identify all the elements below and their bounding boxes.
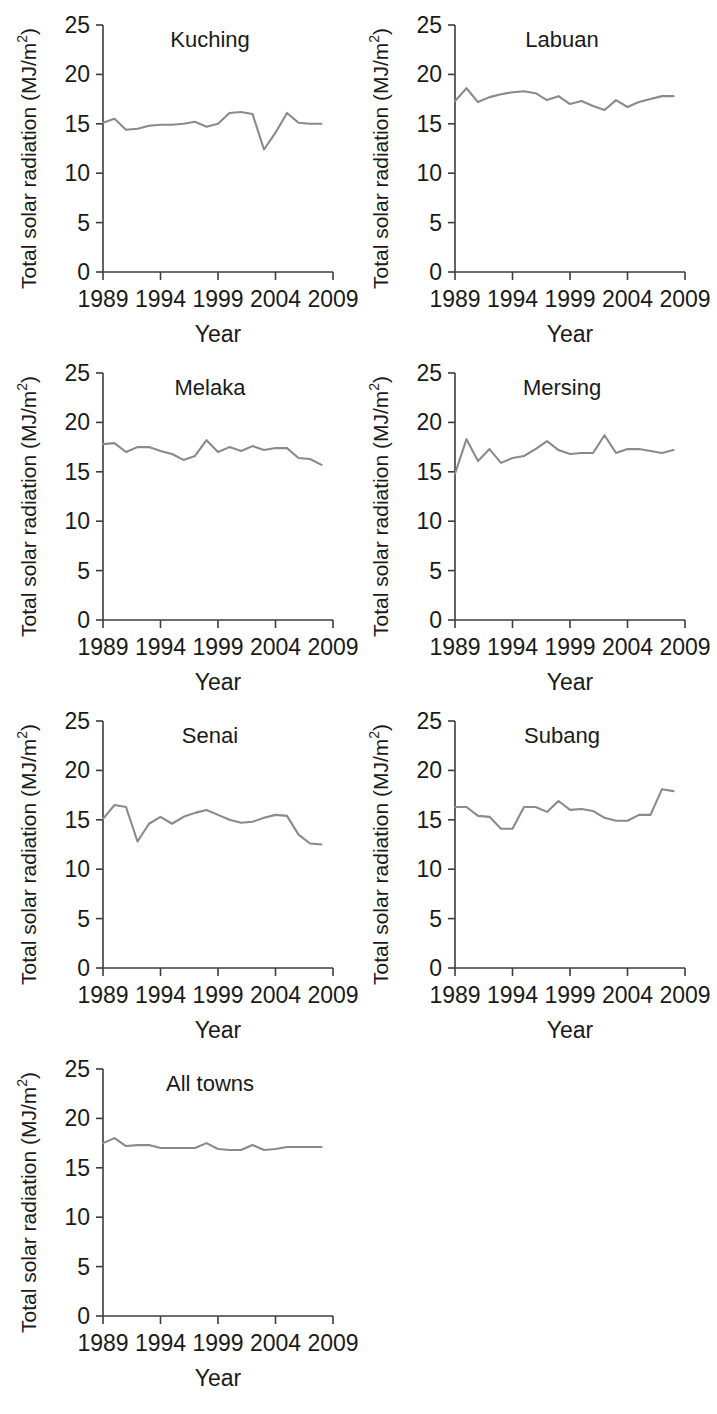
y-tick-label: 10 [64, 856, 90, 882]
chart-panel-kuching: 051015202519891994199920042009KuchingTot… [0, 0, 358, 348]
x-tick-label: 2009 [307, 286, 358, 312]
x-tick-label: 1994 [487, 286, 538, 312]
panel-title: Melaka [175, 375, 247, 400]
y-tick-label: 25 [416, 360, 442, 386]
x-axis-title: Year [547, 321, 594, 347]
x-tick-label: 1989 [77, 634, 128, 660]
y-axis-title-superscript: 2 [14, 35, 30, 43]
x-tick-label: 2004 [250, 982, 301, 1008]
y-tick-label: 25 [416, 708, 442, 734]
y-tick-label: 0 [429, 607, 442, 633]
x-tick-label: 1989 [77, 286, 128, 312]
x-tick-label: 2004 [602, 982, 653, 1008]
x-tick-label: 1999 [544, 982, 595, 1008]
panel-title: All towns [166, 1071, 254, 1096]
solar-radiation-figure: 051015202519891994199920042009KuchingTot… [0, 0, 717, 1414]
y-axis-title-main: Total solar radiation (MJ/m [369, 739, 392, 985]
plot-area: 051015202519891994199920042009MelakaTota… [0, 348, 358, 696]
y-tick-label: 15 [64, 111, 90, 137]
chart-panel-all-towns: 051015202519891994199920042009All townsT… [0, 1044, 358, 1392]
panel-title: Kuching [170, 27, 250, 52]
y-tick-label: 10 [416, 508, 442, 534]
y-axis-title: Total solar radiation (MJ/m2) [366, 376, 392, 637]
y-axis-title-main: Total solar radiation (MJ/m [17, 1087, 40, 1333]
y-axis-title-close: ) [369, 376, 392, 383]
y-tick-label: 5 [77, 210, 90, 236]
x-axis-title: Year [195, 1017, 242, 1043]
y-axis-title-close: ) [369, 724, 392, 731]
x-tick-label: 2004 [250, 286, 301, 312]
y-axis-title-close: ) [17, 724, 40, 731]
panel-title: Subang [524, 723, 600, 748]
panel-title: Senai [182, 723, 238, 748]
y-tick-label: 25 [64, 708, 90, 734]
y-axis-title-superscript: 2 [366, 35, 382, 43]
y-axis-title-close: ) [17, 28, 40, 35]
y-tick-label: 5 [77, 1254, 90, 1280]
y-tick-label: 0 [77, 259, 90, 285]
y-tick-label: 0 [429, 955, 442, 981]
y-axis-title-superscript: 2 [14, 383, 30, 391]
x-tick-label: 1999 [192, 982, 243, 1008]
x-tick-label: 2004 [250, 1330, 301, 1356]
y-tick-label: 15 [64, 1155, 90, 1181]
x-tick-label: 1989 [77, 1330, 128, 1356]
y-tick-label: 5 [77, 558, 90, 584]
y-tick-label: 15 [416, 807, 442, 833]
x-axis-title: Year [195, 1365, 242, 1391]
chart-panel-labuan: 051015202519891994199920042009LabuanTota… [352, 0, 710, 348]
x-tick-label: 2009 [307, 982, 358, 1008]
y-tick-label: 5 [429, 906, 442, 932]
x-tick-label: 1989 [429, 634, 480, 660]
x-tick-label: 1989 [429, 982, 480, 1008]
y-tick-label: 0 [77, 1303, 90, 1329]
chart-panel-senai: 051015202519891994199920042009SenaiTotal… [0, 696, 358, 1044]
plot-area: 051015202519891994199920042009MersingTot… [352, 348, 710, 696]
y-axis-title-main: Total solar radiation (MJ/m [17, 43, 40, 289]
x-axis-title: Year [195, 321, 242, 347]
y-axis-title: Total solar radiation (MJ/m2) [14, 724, 40, 985]
y-tick-label: 10 [64, 1204, 90, 1230]
plot-area: 051015202519891994199920042009LabuanTota… [352, 0, 710, 348]
x-axis-title: Year [195, 669, 242, 695]
x-axis-title: Year [547, 669, 594, 695]
y-axis-title-main: Total solar radiation (MJ/m [17, 739, 40, 985]
data-series-line [103, 112, 322, 150]
y-tick-label: 20 [416, 757, 442, 783]
y-axis-title-superscript: 2 [366, 383, 382, 391]
chart-panel-mersing: 051015202519891994199920042009MersingTot… [352, 348, 710, 696]
x-tick-label: 2009 [307, 1330, 358, 1356]
y-tick-label: 25 [64, 360, 90, 386]
y-tick-label: 20 [64, 61, 90, 87]
x-tick-label: 1999 [192, 1330, 243, 1356]
data-series-line [103, 440, 322, 465]
x-tick-label: 2009 [659, 634, 710, 660]
y-axis-title-superscript: 2 [14, 731, 30, 739]
data-series-line [103, 805, 322, 845]
y-tick-label: 0 [77, 955, 90, 981]
y-tick-label: 15 [64, 807, 90, 833]
y-axis-title-main: Total solar radiation (MJ/m [17, 391, 40, 637]
x-tick-label: 1994 [135, 1330, 186, 1356]
y-tick-label: 0 [429, 259, 442, 285]
y-axis-title-close: ) [17, 376, 40, 383]
y-tick-label: 10 [416, 856, 442, 882]
x-tick-label: 2004 [250, 634, 301, 660]
x-tick-label: 2009 [659, 982, 710, 1008]
x-axis-title: Year [547, 1017, 594, 1043]
y-tick-label: 20 [416, 409, 442, 435]
y-tick-label: 5 [77, 906, 90, 932]
x-tick-label: 1994 [135, 982, 186, 1008]
x-tick-label: 1999 [192, 634, 243, 660]
x-tick-label: 1989 [77, 982, 128, 1008]
data-series-line [455, 88, 674, 110]
x-tick-label: 1999 [192, 286, 243, 312]
y-tick-label: 5 [429, 210, 442, 236]
y-tick-label: 15 [64, 459, 90, 485]
y-axis-title-superscript: 2 [366, 731, 382, 739]
plot-area: 051015202519891994199920042009KuchingTot… [0, 0, 358, 348]
y-tick-label: 10 [416, 160, 442, 186]
y-tick-label: 5 [429, 558, 442, 584]
x-tick-label: 2004 [602, 286, 653, 312]
y-tick-label: 0 [77, 607, 90, 633]
